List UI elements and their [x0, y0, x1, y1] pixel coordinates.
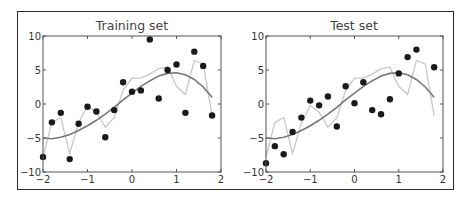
x-tick-label: 0 — [351, 174, 357, 185]
x-tick-label: −1 — [80, 174, 95, 185]
y-tick-label: 0 — [258, 99, 264, 110]
data-point — [378, 111, 384, 117]
data-point — [182, 110, 188, 116]
data-point — [120, 79, 126, 85]
data-point — [102, 134, 108, 140]
data-point — [111, 107, 117, 113]
data-point — [325, 93, 331, 99]
test-set-panel: Test set −2−10121050−5−10 — [243, 18, 446, 185]
y-tick-label: −5 — [26, 133, 41, 144]
data-point — [342, 83, 348, 89]
charts-canvas: Training set −2−10121050−5−10 Test set −… — [0, 0, 469, 200]
data-point — [200, 63, 206, 69]
data-point — [138, 87, 144, 93]
smooth-fit-line — [43, 73, 212, 139]
data-point — [129, 89, 135, 95]
data-point — [431, 64, 437, 70]
data-point — [93, 108, 99, 114]
y-tick-label: 0 — [35, 99, 41, 110]
data-point — [173, 61, 179, 67]
data-point — [404, 54, 410, 60]
data-point — [281, 151, 287, 157]
x-tick-label: 1 — [396, 174, 402, 185]
x-tick-label: −1 — [303, 174, 318, 185]
data-point — [413, 46, 419, 52]
x-tick-label: 1 — [173, 174, 179, 185]
smooth-fit-line — [266, 73, 434, 139]
data-point — [58, 110, 64, 116]
data-point — [360, 79, 366, 85]
data-point — [334, 123, 340, 129]
data-point — [67, 156, 73, 162]
data-point — [307, 97, 313, 103]
data-point — [351, 100, 357, 106]
data-point — [84, 104, 90, 110]
data-point — [49, 119, 55, 125]
y-tick-label: 10 — [251, 31, 264, 42]
data-point — [289, 129, 295, 135]
data-point — [191, 48, 197, 54]
data-point — [75, 121, 81, 127]
y-tick-label: 5 — [35, 65, 41, 76]
y-tick-label: 10 — [28, 31, 41, 42]
data-point — [164, 67, 170, 73]
x-tick-label: 0 — [129, 174, 135, 185]
data-point — [316, 102, 322, 108]
x-tick-label: 2 — [440, 174, 446, 185]
x-tick-label: 2 — [218, 174, 224, 185]
data-point — [209, 112, 215, 118]
data-point — [298, 114, 304, 120]
data-point — [369, 107, 375, 113]
chart-title: Training set — [95, 18, 168, 33]
data-point — [147, 36, 153, 42]
training-set-panel: Training set −2−10121050−5−10 — [20, 18, 224, 185]
y-tick-label: −5 — [249, 133, 264, 144]
y-tick-label: 5 — [258, 65, 264, 76]
data-point — [272, 143, 278, 149]
y-tick-label: −10 — [243, 167, 264, 178]
data-point — [396, 70, 402, 76]
chart-title: Test set — [329, 18, 378, 33]
data-point — [387, 96, 393, 102]
y-tick-label: −10 — [20, 167, 41, 178]
data-point — [156, 95, 162, 101]
